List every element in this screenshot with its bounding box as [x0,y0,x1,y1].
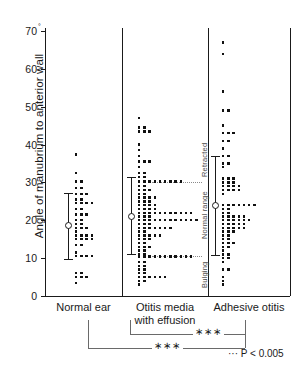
data-point [232,219,234,221]
data-point [143,185,145,187]
data-point [222,53,224,55]
data-point [148,219,150,221]
significance-bracket [130,334,245,335]
data-point [138,230,140,232]
data-point [85,234,87,236]
data-point [232,177,234,179]
data-point [148,238,150,240]
data-point [143,268,145,270]
data-point [143,242,145,244]
y-tick [41,220,45,221]
data-point [138,180,140,182]
data-point [148,130,150,132]
data-point [238,185,240,187]
y-tick [41,258,45,259]
data-point [159,234,161,236]
data-point [138,189,140,191]
error-bar-cap [127,254,136,255]
data-point [138,276,140,278]
data-point [164,180,166,182]
data-point [75,213,77,215]
data-point [227,234,229,236]
data-point [148,212,150,214]
data-point [227,132,229,134]
data-point [138,272,140,274]
data-point [154,276,156,278]
data-point [138,208,140,210]
data-point [75,219,77,221]
y-tick [41,107,45,108]
data-point [148,246,150,248]
data-point [138,246,140,248]
data-point [80,234,82,236]
data-point [222,268,224,270]
data-point [154,204,156,206]
zone-label: Retracted [200,142,209,176]
data-point [143,176,145,178]
data-point [75,208,77,210]
data-point [143,204,145,206]
data-point [222,234,224,236]
data-point [75,282,77,284]
y-tick-label: 0 [11,290,37,302]
data-point [138,268,140,270]
data-point [159,255,161,257]
data-point [80,198,82,200]
data-point [80,272,82,274]
data-point [75,223,77,225]
significance-stars: ∗∗∗ [193,328,224,336]
significance-bracket-tick [88,320,89,348]
y-tick [41,182,45,183]
data-point [227,212,229,214]
data-point [154,208,156,210]
data-point [232,181,234,183]
data-point [75,172,77,174]
data-point [80,223,82,225]
significance-bracket-tick [130,320,131,334]
data-point [138,172,140,174]
data-point [75,180,77,182]
data-point [222,249,224,251]
data-point [143,280,145,282]
data-point [227,268,229,270]
data-point [227,219,229,221]
data-point [143,246,145,248]
data-point [85,255,87,257]
data-point [248,204,250,206]
data-point [143,189,145,191]
data-point [154,234,156,236]
data-point [143,255,145,257]
data-point [222,204,224,206]
data-point [159,227,161,229]
data-point [143,238,145,240]
data-point [143,276,145,278]
data-point [75,244,77,246]
data-point [91,238,93,240]
data-point [222,181,224,183]
data-point [143,219,145,221]
data-point [143,212,145,214]
data-point [154,196,156,198]
data-point [238,189,240,191]
data-point [75,202,77,204]
error-bar-cap [211,156,220,157]
significance-bracket-tick [245,320,246,348]
data-point [227,227,229,229]
data-point [148,215,150,217]
data-point [138,166,140,168]
data-point [138,130,140,132]
data-point [138,126,140,128]
data-point [222,132,224,134]
data-point [138,234,140,236]
data-point [80,180,82,182]
data-point [174,219,176,221]
data-point [138,249,140,251]
data-point [138,185,140,187]
data-point [80,213,82,215]
data-point [143,230,145,232]
data-point [143,261,145,263]
data-point [232,189,234,191]
data-point [232,132,234,134]
y-tick-label: 60 [11,63,37,75]
data-point [138,117,140,119]
